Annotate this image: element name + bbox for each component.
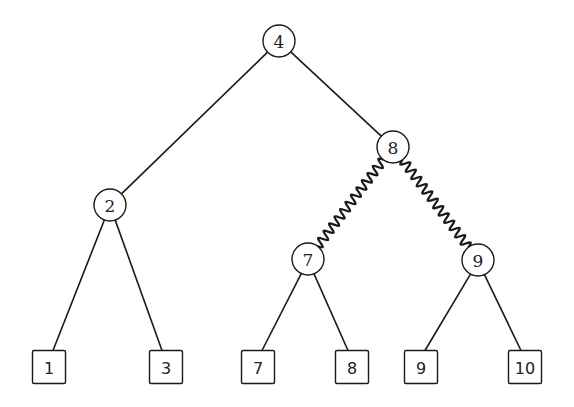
node-label: 9: [473, 251, 484, 271]
tree-node: 4: [263, 25, 295, 57]
edge-n8-n9: [400, 160, 470, 247]
edge-n7-l7: [262, 274, 301, 351]
edge-n4-n2: [121, 52, 267, 194]
tree-node: 9: [462, 244, 494, 276]
tree-node: 2: [94, 189, 126, 221]
leaf-node: 1: [33, 351, 66, 384]
edge-n2-l1: [53, 220, 104, 351]
tree-node: 7: [292, 243, 324, 275]
edge-n9-l9: [425, 274, 470, 350]
node-label: 4: [274, 32, 285, 52]
leaf-label: 7: [253, 359, 263, 378]
leaf-label: 8: [347, 359, 357, 378]
tree-node: 8: [377, 131, 409, 163]
leaf-label: 3: [161, 359, 171, 378]
leaf-node: 8: [336, 351, 369, 384]
node-label: 2: [105, 196, 116, 216]
leaf-label: 1: [44, 359, 54, 378]
edge-n4-n8: [291, 52, 382, 136]
leaf-node: 7: [242, 351, 275, 384]
tree-diagram: 428791378910: [0, 0, 574, 407]
leaf-label: 10: [515, 359, 535, 378]
nodes: 428791378910: [33, 25, 542, 384]
edge-n7-l8: [314, 274, 348, 351]
edge-n8-n7: [318, 159, 384, 248]
edge-n2-l3: [115, 220, 162, 350]
leaf-node: 10: [509, 351, 542, 384]
edge-n9-l10: [484, 275, 521, 351]
node-label: 7: [303, 250, 314, 270]
leaf-node: 9: [405, 351, 438, 384]
leaf-node: 3: [150, 351, 183, 384]
node-label: 8: [388, 138, 399, 158]
leaf-label: 9: [416, 359, 426, 378]
